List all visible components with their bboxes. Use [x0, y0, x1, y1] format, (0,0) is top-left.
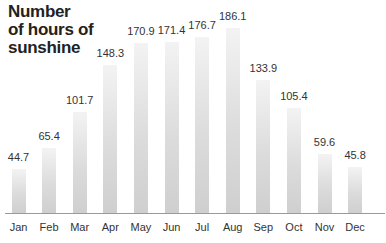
bar-dec — [348, 167, 362, 213]
x-tick-label-dec: Dec — [337, 221, 373, 233]
bar-jun — [165, 42, 179, 213]
bar-mar — [73, 112, 87, 213]
value-label-oct: 105.4 — [274, 90, 314, 102]
bar-feb — [42, 148, 56, 213]
value-label-apr: 148.3 — [90, 47, 130, 59]
bar-oct — [287, 108, 301, 213]
bar-sep — [256, 80, 270, 213]
bar-chart-plot: 44.7Jan65.4Feb101.7Mar148.3Apr170.9May17… — [0, 0, 386, 243]
bar-jul — [195, 37, 209, 213]
value-label-nov: 59.6 — [305, 136, 345, 148]
bar-apr — [103, 65, 117, 213]
value-label-mar: 101.7 — [60, 94, 100, 106]
bar-may — [134, 43, 148, 213]
bar-aug — [226, 28, 240, 213]
value-label-jan: 44.7 — [0, 151, 39, 163]
value-label-feb: 65.4 — [29, 130, 69, 142]
value-label-dec: 45.8 — [335, 149, 375, 161]
value-label-aug: 186.1 — [213, 10, 253, 22]
x-axis-line — [5, 213, 385, 214]
bar-jan — [12, 169, 26, 213]
value-label-sep: 133.9 — [243, 62, 283, 74]
bar-nov — [318, 154, 332, 213]
